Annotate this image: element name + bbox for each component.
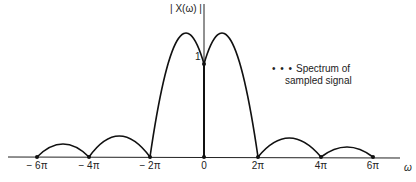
legend: • • •Spectrum of sampled signal [272,63,352,87]
x-tick-6pi: 6π [367,160,379,171]
x-tick-neg6pi: − 6π [26,160,47,171]
peak-value-label: 1 [195,51,201,62]
x-tick-zero: 0 [201,160,207,171]
x-tick-neg2pi: − 2π [139,160,160,171]
legend-marker-icon: • • • [272,63,293,74]
legend-text-line1: Spectrum of [296,63,350,74]
x-tick-4pi: 4π [315,160,327,171]
spectrum-plot [0,0,416,182]
x-axis-label: ω [404,162,412,173]
x-tick-neg4pi: − 4π [78,160,99,171]
y-axis-label: | X(ω) | [170,3,202,14]
legend-text-line2: sampled signal [272,75,352,87]
x-tick-2pi: 2π [252,160,264,171]
